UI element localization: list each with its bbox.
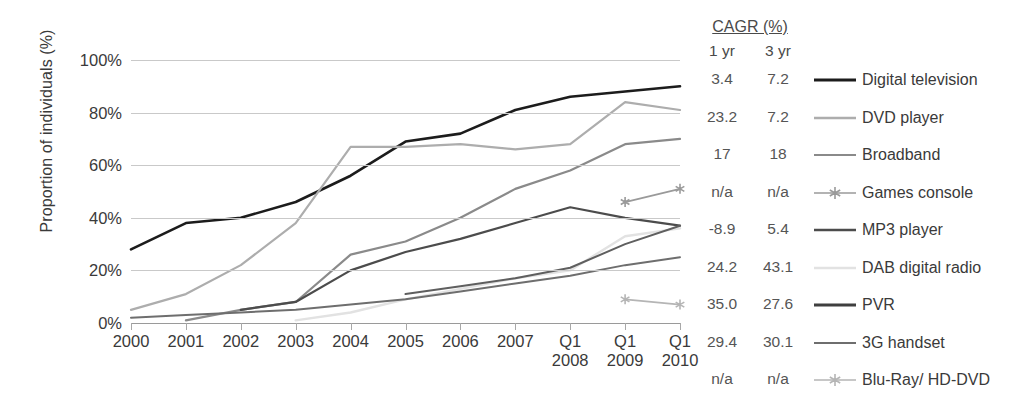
cagr-3yr-value: n/a [756, 183, 800, 201]
cagr-row: n/an/a [694, 370, 806, 388]
cagr-row: 35.027.6 [694, 295, 806, 313]
x-axis-tick-label: 2001 [168, 332, 205, 351]
x-axis-tick-mark [460, 323, 461, 330]
legend-label: Broadband [862, 145, 940, 165]
legend-label: Games console [862, 183, 973, 203]
gridline [131, 218, 680, 219]
x-axis-tick-mark [351, 323, 352, 330]
cagr-1yr-value: -8.9 [700, 220, 744, 238]
legend-item[interactable]: 3G handset [812, 333, 1016, 353]
series-line [241, 207, 680, 310]
x-tick-line2: 2009 [607, 351, 644, 370]
legend-label: Blu-Ray/ HD-DVD [862, 370, 990, 390]
cagr-3yr-value: 27.6 [756, 295, 800, 313]
cagr-3yr-value: 18 [756, 145, 800, 163]
legend-item[interactable]: DVD player [812, 108, 1016, 128]
legend-swatch [812, 370, 858, 390]
y-axis-tick-label: 60% [89, 156, 122, 175]
cagr-3yr-value: 30.1 [756, 333, 800, 351]
x-axis-tick-mark [515, 323, 516, 330]
legend-label: DVD player [862, 108, 944, 128]
legend-swatch [812, 70, 858, 90]
x-tick-line1: 2000 [113, 332, 150, 350]
x-axis-tick-mark [186, 323, 187, 330]
x-tick-line1: 2004 [332, 332, 369, 350]
legend-swatch [812, 333, 858, 353]
legend-item[interactable]: PVR [812, 295, 1016, 315]
x-tick-line1: 2003 [277, 332, 314, 350]
series-line [406, 226, 681, 294]
legend-item[interactable]: Blu-Ray/ HD-DVD [812, 370, 1016, 390]
cagr-row: 3.47.2 [694, 70, 806, 88]
cagr-row: 23.27.2 [694, 108, 806, 126]
x-axis-tick-mark [625, 323, 626, 330]
cagr-row: n/an/a [694, 183, 806, 201]
cagr-1yr-value: 24.2 [700, 258, 744, 276]
cagr-3yr-value: 5.4 [756, 220, 800, 238]
y-axis-tick-label: 80% [89, 103, 122, 122]
series-line [131, 102, 680, 310]
cagr-1yr-value: 3.4 [700, 70, 744, 88]
cagr-title: CAGR (%) [694, 18, 806, 36]
legend-label: DAB digital radio [862, 258, 981, 278]
y-axis-tick-label: 40% [89, 208, 122, 227]
x-axis-tick-label: 2000 [113, 332, 150, 351]
series-line [131, 257, 680, 317]
x-tick-line1: 2006 [442, 332, 479, 350]
x-axis-tick-mark [570, 323, 571, 330]
x-axis-tick-mark [680, 323, 681, 330]
cagr-row: 29.430.1 [694, 333, 806, 351]
legend-item[interactable]: Digital television [812, 70, 1016, 90]
x-axis-tick-label: 2004 [332, 332, 369, 351]
legend-label: 3G handset [862, 333, 945, 353]
cagr-3yr-value: 43.1 [756, 258, 800, 276]
x-axis-tick-label: 2005 [387, 332, 424, 351]
gridline [131, 113, 680, 114]
x-axis-tick-mark [406, 323, 407, 330]
legend-label: PVR [862, 295, 895, 315]
x-axis-tick-mark [131, 323, 132, 330]
cagr-1yr-value: 29.4 [700, 333, 744, 351]
legend-swatch [812, 220, 858, 240]
y-axis-tick-label: 0% [98, 314, 122, 333]
legend-item[interactable]: MP3 player [812, 220, 1016, 240]
y-axis-tick-label: 100% [80, 51, 122, 70]
x-tick-line1: 2005 [387, 332, 424, 350]
cagr-1yr-value: n/a [700, 370, 744, 388]
x-axis-tick-label: 2007 [497, 332, 534, 351]
x-axis-tick-mark [241, 323, 242, 330]
cagr-row: 24.243.1 [694, 258, 806, 276]
x-tick-line1: 2001 [168, 332, 205, 350]
legend-item[interactable]: DAB digital radio [812, 258, 1016, 278]
x-tick-line1: 2002 [222, 332, 259, 350]
cagr-1yr-value: 35.0 [700, 295, 744, 313]
x-tick-line2: 2008 [552, 351, 589, 370]
cagr-1yr-value: 23.2 [700, 108, 744, 126]
gridline [131, 165, 680, 166]
plot-area: 0%20%40%60%80%100%2000200120022003200420… [131, 60, 680, 340]
legend-item[interactable]: Games console [812, 183, 1016, 203]
y-axis-tick-label: 20% [89, 261, 122, 280]
x-axis-tick-label: Q12008 [552, 332, 589, 370]
x-axis-tick-label: 2002 [222, 332, 259, 351]
cagr-3yr-value: 7.2 [756, 70, 800, 88]
legend-label: Digital television [862, 70, 978, 90]
cagr-row: 1718 [694, 145, 806, 163]
x-tick-line1: Q1 [614, 332, 636, 350]
cagr-3yr-value: n/a [756, 370, 800, 388]
legend-swatch [812, 295, 858, 315]
legend-label: MP3 player [862, 220, 943, 240]
chart-root: Proportion of individuals (%) 0%20%40%60… [0, 0, 1016, 402]
series-line [625, 299, 680, 304]
cagr-col1-header: 1 yr [700, 42, 744, 60]
legend-swatch [812, 108, 858, 128]
gridline [131, 60, 680, 61]
series-line [131, 86, 680, 249]
legend-item[interactable]: Broadband [812, 145, 1016, 165]
x-axis-tick-label: Q12009 [607, 332, 644, 370]
x-tick-line1: 2007 [497, 332, 534, 350]
series-line [296, 228, 680, 320]
series-line [625, 189, 680, 202]
x-axis-tick-label: 2006 [442, 332, 479, 351]
legend-swatch [812, 145, 858, 165]
